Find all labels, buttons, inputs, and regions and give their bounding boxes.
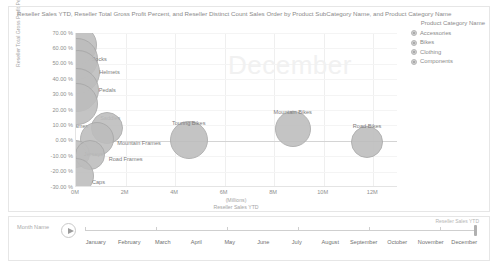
horizontal-gridline xyxy=(76,79,397,80)
bubble-chart-visual[interactable]: Reseller Sales YTD, Reseller Total Gross… xyxy=(8,6,490,212)
slicer-measure-label: Reseller Sales YTD xyxy=(435,218,479,225)
slicer-tickmark xyxy=(156,227,157,231)
legend: Product Category Name AccessoriesBikesCl… xyxy=(401,19,485,65)
legend-item-label: Accessories xyxy=(420,30,451,37)
y-axis-tick-labels: 70.00 %60.00 %50.00 %40.00 %30.00 %20.00… xyxy=(37,33,73,187)
slicer-tickmark xyxy=(440,227,441,231)
legend-item-clothing[interactable]: Clothing xyxy=(401,49,485,56)
slicer-tickmark xyxy=(227,227,228,231)
legend-item-bikes[interactable]: Bikes xyxy=(401,39,485,46)
x-axis-tick: 6M xyxy=(220,188,228,196)
plot-area-wrapper: Reseller Total Gross Profit Percent 70.0… xyxy=(37,33,397,197)
plot-area[interactable]: December Bike RacksSocksHelmetsPedalsSad… xyxy=(75,33,397,187)
slicer-month-march[interactable]: March xyxy=(155,238,171,247)
x-axis-title: Reseller Sales YTD xyxy=(75,204,397,211)
play-axis-slicer[interactable]: Month Name Reseller Sales YTD JanuaryFeb… xyxy=(8,216,490,261)
horizontal-gridline xyxy=(76,33,397,34)
chart-title: Reseller Sales YTD, Reseller Total Gross… xyxy=(17,10,479,18)
x-axis-unit: (Millions) xyxy=(75,197,397,204)
slicer-month-august[interactable]: August xyxy=(322,238,339,247)
slicer-track[interactable] xyxy=(85,230,475,231)
slicer-tickmark xyxy=(298,227,299,231)
y-axis-tick: 60.00 % xyxy=(37,45,73,52)
y-axis-tick: -20.00 % xyxy=(37,168,73,175)
x-axis-tick: 8M xyxy=(269,188,277,196)
slicer-tickmark xyxy=(85,227,86,231)
bubble-label: Touring Bikes xyxy=(172,120,206,127)
slicer-month-january[interactable]: January xyxy=(86,238,106,247)
horizontal-gridline xyxy=(76,64,397,65)
legend-marker-icon xyxy=(411,40,417,46)
slicer-month-labels: JanuaryFebruaryMarchAprilMayJuneJulyAugu… xyxy=(79,238,481,250)
bubble-label: Pedals xyxy=(99,86,116,93)
slicer-tickmark xyxy=(369,227,370,231)
legend-item-label: Clothing xyxy=(420,49,441,56)
x-axis-tick: 12M xyxy=(367,188,378,196)
slicer-month-february[interactable]: February xyxy=(118,238,140,247)
x-axis-tick: 4M xyxy=(170,188,178,196)
legend-title: Product Category Name xyxy=(401,19,485,27)
bubble-touring-bikes[interactable] xyxy=(170,121,208,159)
y-axis-tick: 50.00 % xyxy=(37,60,73,67)
legend-item-components[interactable]: Components xyxy=(401,58,485,65)
bubble-label: Caps xyxy=(92,179,105,186)
legend-marker-icon xyxy=(411,59,417,65)
play-icon[interactable] xyxy=(61,223,76,238)
month-watermark: December xyxy=(228,51,352,79)
y-axis-title: Reseller Total Gross Profit Percent xyxy=(15,0,22,67)
slicer-month-april[interactable]: April xyxy=(191,238,202,247)
slicer-month-october[interactable]: October xyxy=(387,238,407,247)
legend-items: AccessoriesBikesClothingComponents xyxy=(401,30,485,66)
bubble-label: Mountain Bikes xyxy=(274,109,312,116)
y-axis-tick: 40.00 % xyxy=(37,76,73,83)
legend-item-label: Bikes xyxy=(420,39,434,46)
y-axis-tick: -10.00 % xyxy=(37,153,73,160)
slicer-month-november[interactable]: November xyxy=(418,238,444,247)
y-axis-tick: 30.00 % xyxy=(37,91,73,98)
bubble-label: Road Frames xyxy=(109,155,143,162)
y-axis-tick: 0.00 % xyxy=(37,137,73,144)
bubble-label: Road Bikes xyxy=(353,123,382,130)
slicer-month-december[interactable]: December xyxy=(451,238,477,247)
x-axis-tick: 2M xyxy=(121,188,129,196)
horizontal-gridline xyxy=(76,95,397,96)
y-axis-tick: 70.00 % xyxy=(37,30,73,37)
legend-marker-icon xyxy=(411,30,417,36)
bubble-label: Mountain Frames xyxy=(117,140,161,147)
y-axis-tick: 10.00 % xyxy=(37,122,73,129)
legend-item-label: Components xyxy=(420,58,453,65)
legend-item-accessories[interactable]: Accessories xyxy=(401,30,485,37)
slicer-month-may[interactable]: May xyxy=(224,238,235,247)
bubble-mountain-bikes[interactable] xyxy=(275,111,311,147)
slicer-field-label: Month Name xyxy=(17,223,49,231)
horizontal-gridline xyxy=(76,172,397,173)
bubble-road-bikes[interactable] xyxy=(351,126,383,158)
y-axis-tick: 20.00 % xyxy=(37,107,73,114)
bubble-label: Helmets xyxy=(99,68,120,75)
x-axis-tick: 10M xyxy=(317,188,328,196)
y-axis-tick: -30.00 % xyxy=(37,184,73,191)
slicer-handle[interactable] xyxy=(474,225,477,236)
horizontal-gridline xyxy=(76,110,397,111)
slicer-month-june[interactable]: June xyxy=(257,238,269,247)
report-canvas: Reseller Sales YTD, Reseller Total Gross… xyxy=(0,0,498,269)
legend-marker-icon xyxy=(411,49,417,55)
x-axis-tick: 0M xyxy=(71,188,79,196)
horizontal-gridline xyxy=(76,125,397,126)
horizontal-gridline xyxy=(76,48,397,49)
slicer-month-july[interactable]: July xyxy=(292,238,302,247)
slicer-month-september[interactable]: September xyxy=(350,238,377,247)
